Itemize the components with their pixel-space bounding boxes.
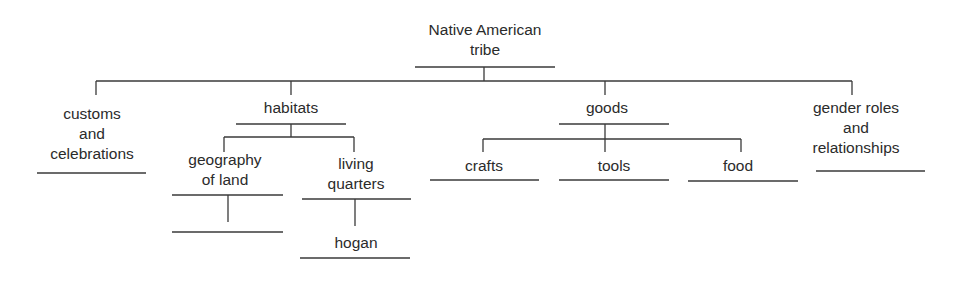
node-goods: goods	[586, 98, 628, 118]
node-geography-of-land: geography of land	[188, 150, 261, 190]
node-habitats: habitats	[264, 98, 318, 118]
node-living-quarters: living quarters	[328, 154, 385, 194]
node-crafts: crafts	[465, 156, 503, 176]
node-customs-and-celebrations: customs and celebrations	[50, 104, 134, 164]
node-root: Native American tribe	[429, 20, 542, 60]
tree-diagram: Native American tribe customs and celebr…	[0, 0, 963, 296]
node-tools: tools	[598, 156, 631, 176]
node-food: food	[723, 156, 753, 176]
node-gender-roles-and-relationships: gender roles and relationships	[812, 98, 899, 158]
node-hogan: hogan	[334, 233, 377, 253]
